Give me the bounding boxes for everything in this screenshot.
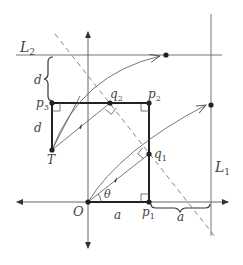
label-q2: q2	[110, 87, 123, 103]
square-path	[52, 103, 149, 202]
label-theta: θ	[104, 188, 111, 201]
right-angle-q2	[105, 108, 116, 114]
label-L2: L2	[19, 39, 35, 57]
point-p2	[146, 100, 151, 105]
ray-O-q1	[88, 154, 149, 202]
label-O: O	[73, 204, 84, 219]
axes	[17, 32, 228, 248]
label-p3: p3	[36, 96, 49, 112]
point-O	[85, 199, 90, 204]
label-p2: p2	[148, 87, 161, 103]
label-d-side: d	[34, 121, 42, 135]
point-q2	[107, 100, 112, 105]
label-L1: L1	[214, 159, 230, 177]
point-on-L2	[163, 52, 168, 57]
point-p1	[146, 199, 151, 204]
reflection-diagram: L2 L1 d d p3 q2 p2 T q1 θ O a p1 a	[0, 0, 243, 265]
ray-T-L2	[52, 96, 80, 150]
label-d-top: d	[34, 73, 42, 87]
right-angle-q1	[138, 148, 144, 159]
point-on-L1	[208, 102, 213, 107]
label-a-brace: a	[177, 210, 184, 224]
point-T	[49, 147, 54, 152]
point-p3	[49, 100, 54, 105]
brace-d	[44, 57, 53, 101]
theta-arc	[98, 194, 101, 202]
label-q1: q1	[154, 147, 167, 163]
point-q1	[146, 151, 151, 156]
label-T: T	[47, 153, 56, 167]
label-a-bottom: a	[114, 208, 121, 222]
